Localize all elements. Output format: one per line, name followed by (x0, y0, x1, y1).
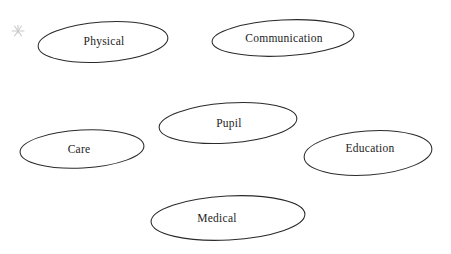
node-communication-label: Communication (245, 32, 322, 44)
node-medical[interactable]: Medical (150, 192, 306, 244)
node-pupil-label: Pupil (216, 117, 242, 130)
asterisk-icon (12, 26, 24, 37)
node-education-label: Education (346, 142, 395, 154)
diagram-canvas: Physical Communication Pupil Care Educat… (0, 0, 451, 254)
node-physical[interactable]: Physical (37, 18, 169, 67)
node-pupil[interactable]: Pupil (158, 98, 298, 148)
node-physical-label: Physical (84, 35, 125, 48)
node-education[interactable]: Education (303, 127, 434, 180)
node-care[interactable]: Care (19, 127, 145, 171)
node-communication[interactable]: Communication (211, 16, 355, 59)
node-medical-label: Medical (197, 212, 236, 224)
node-care-label: Care (68, 143, 91, 155)
concept-map-svg: Physical Communication Pupil Care Educat… (0, 0, 451, 254)
